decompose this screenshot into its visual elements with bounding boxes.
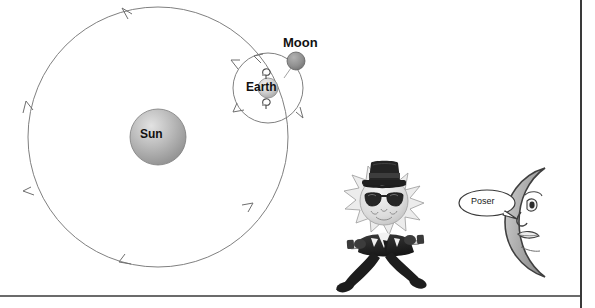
sun-character-suit	[354, 233, 416, 257]
earth-label: Earth	[246, 80, 277, 94]
moon-sphere	[287, 52, 305, 70]
crescent-shape	[505, 168, 545, 277]
sun-character-legs	[335, 252, 428, 294]
page-root: Sun Earth Moon Poser	[0, 0, 595, 308]
sun-character	[335, 161, 428, 294]
sun-label: Sun	[140, 127, 163, 141]
speech-bubble-text: Poser	[471, 196, 495, 206]
moon-eye	[525, 192, 542, 211]
moon-character	[505, 168, 545, 277]
orbit-diagram	[23, 7, 305, 267]
moon-label: Moon	[283, 35, 318, 50]
earth-rotation-arrow-bottom	[262, 99, 270, 109]
earth-rotation-arrow-top	[262, 69, 270, 79]
moon-connector-line	[284, 68, 291, 78]
